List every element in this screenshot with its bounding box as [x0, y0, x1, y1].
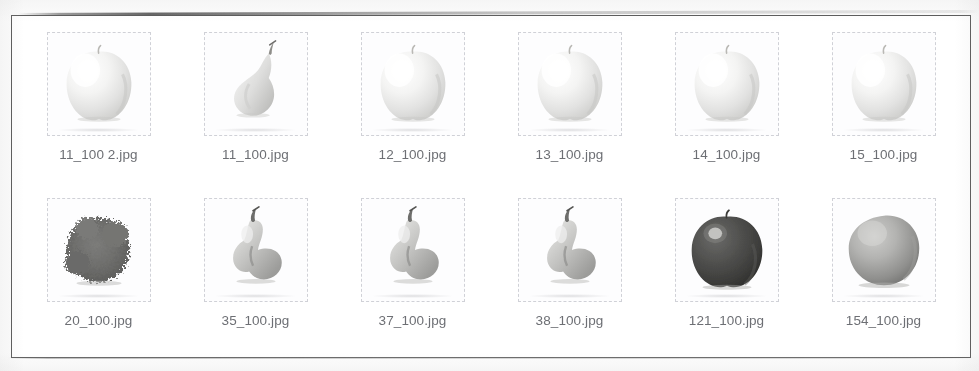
fruit-photo-icon — [521, 35, 619, 133]
fruit-photo-icon — [364, 35, 462, 133]
thumbnail-filename-label: 13_100.jpg — [536, 147, 604, 162]
thumbnail-image-apple-pale-icon[interactable] — [675, 32, 779, 136]
thumbnail-grid: 11_100 2.jpg 11_100.jpg — [12, 16, 970, 357]
thumbnail-filename-label: 37_100.jpg — [379, 313, 447, 328]
thumbnail-item[interactable]: 11_100 2.jpg — [20, 22, 177, 188]
thumbnail-item[interactable]: 38_100.jpg — [491, 188, 648, 354]
thumbnail-filename-label: 38_100.jpg — [536, 313, 604, 328]
thumbnail-item[interactable]: 11_100.jpg — [177, 22, 334, 188]
thumbnail-item[interactable]: 12_100.jpg — [334, 22, 491, 188]
thumbnail-image-sphere-grey-icon[interactable] — [832, 198, 936, 302]
fruit-photo-icon — [50, 35, 148, 133]
thumbnail-filename-label: 14_100.jpg — [693, 147, 761, 162]
thumbnail-image-apple-pale-icon[interactable] — [832, 32, 936, 136]
fruit-photo-icon — [678, 201, 776, 299]
thumbnail-item[interactable]: 154_100.jpg — [805, 188, 962, 354]
thumbnail-image-apple-pale-icon[interactable] — [518, 32, 622, 136]
thumbnail-image-pear-grey-icon[interactable] — [204, 198, 308, 302]
thumbnail-item[interactable]: 35_100.jpg — [177, 188, 334, 354]
thumbnail-image-pear-grey-icon[interactable] — [518, 198, 622, 302]
thumbnail-grid-pane: 11_100 2.jpg 11_100.jpg — [11, 15, 971, 358]
thumbnail-image-apple-pale-icon[interactable] — [361, 32, 465, 136]
fruit-photo-icon — [364, 201, 462, 299]
thumbnail-filename-label: 11_100.jpg — [222, 147, 289, 162]
fruit-photo-icon — [678, 35, 776, 133]
thumbnail-item[interactable]: 13_100.jpg — [491, 22, 648, 188]
fruit-photo-icon — [207, 201, 305, 299]
thumbnail-filename-label: 11_100 2.jpg — [59, 147, 137, 162]
thumbnail-filename-label: 12_100.jpg — [379, 147, 447, 162]
thumbnail-item[interactable]: 37_100.jpg — [334, 188, 491, 354]
thumbnail-filename-label: 154_100.jpg — [846, 313, 921, 328]
thumbnail-filename-label: 35_100.jpg — [222, 313, 290, 328]
fruit-photo-icon — [835, 35, 933, 133]
fruit-photo-icon — [207, 35, 305, 133]
thumbnail-item[interactable]: 15_100.jpg — [805, 22, 962, 188]
thumbnail-image-fig-pale-icon[interactable] — [204, 32, 308, 136]
thumbnail-image-apple-dark-icon[interactable] — [675, 198, 779, 302]
thumbnail-filename-label: 20_100.jpg — [65, 313, 133, 328]
thumbnail-filename-label: 15_100.jpg — [850, 147, 918, 162]
thumbnail-image-apple-pale-icon[interactable] — [47, 32, 151, 136]
fruit-photo-icon — [50, 201, 148, 299]
thumbnail-item[interactable]: 14_100.jpg — [648, 22, 805, 188]
fruit-photo-icon — [521, 201, 619, 299]
thumbnail-item[interactable]: 121_100.jpg — [648, 188, 805, 354]
fruit-photo-icon — [835, 201, 933, 299]
thumbnail-filename-label: 121_100.jpg — [689, 313, 764, 328]
thumbnail-image-pear-grey-icon[interactable] — [361, 198, 465, 302]
thumbnail-image-fuzzy-dark-icon[interactable] — [47, 198, 151, 302]
thumbnail-item[interactable]: 20_100.jpg — [20, 188, 177, 354]
